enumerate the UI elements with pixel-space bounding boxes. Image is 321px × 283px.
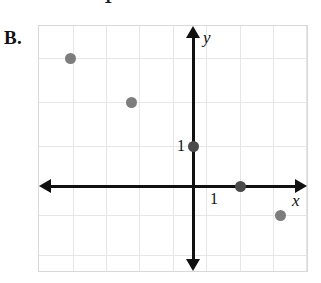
- x-axis-left-arrow-icon: [39, 179, 51, 193]
- grid-line-vertical-4: [206, 26, 207, 271]
- point-5: [275, 210, 286, 221]
- grid-line-vertical-2: [139, 26, 140, 271]
- grid-line-vertical-6: [273, 26, 274, 271]
- point-1: [65, 53, 76, 64]
- grid-line-vertical-7: [306, 26, 307, 271]
- grid-line-vertical-3: [173, 26, 174, 271]
- grid-line-horizontal-4: [39, 215, 307, 216]
- grid-line-vertical-5: [240, 26, 241, 271]
- y-axis-up-arrow-icon: [186, 26, 200, 38]
- coordinate-plane: y x 1 1: [38, 25, 308, 272]
- x-axis-tick-label-1: 1: [210, 190, 218, 208]
- figure-panel: 1 B. y x 1 1: [0, 0, 321, 283]
- point-2: [126, 97, 137, 108]
- x-axis-line: [45, 185, 301, 188]
- grid-line-horizontal-0: [39, 58, 307, 59]
- point-4: [235, 181, 246, 192]
- x-axis-label: x: [292, 191, 300, 211]
- point-3: [188, 141, 199, 152]
- panel-label: B.: [4, 27, 22, 49]
- clipped-top-label: 1: [96, 0, 120, 5]
- y-axis-label: y: [203, 28, 211, 48]
- grid-line-horizontal-2: [39, 146, 307, 147]
- grid-line-horizontal-5: [39, 255, 307, 256]
- grid-line-horizontal-1: [39, 102, 307, 103]
- y-axis-down-arrow-icon: [186, 259, 200, 271]
- grid-line-vertical-1: [106, 26, 107, 271]
- y-axis-tick-label-1: 1: [177, 137, 185, 155]
